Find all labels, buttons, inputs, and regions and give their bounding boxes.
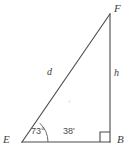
angle-label-e: 73° bbox=[31, 127, 45, 136]
geometry-figure: E B F d h 73° 38' bbox=[0, 0, 128, 160]
base-annotation-label: 38' bbox=[63, 127, 75, 136]
vertex-label-b: B bbox=[117, 134, 124, 145]
vertex-label-e: E bbox=[3, 134, 10, 145]
right-angle-marker-b bbox=[100, 132, 110, 142]
side-hypotenuse-line bbox=[22, 14, 110, 142]
side-label-height-h: h bbox=[114, 68, 119, 78]
scan-artifact-speck bbox=[68, 100, 71, 103]
triangle-drawing bbox=[0, 0, 128, 160]
side-label-hypotenuse-d: d bbox=[47, 67, 52, 77]
vertex-label-f: F bbox=[114, 3, 121, 14]
